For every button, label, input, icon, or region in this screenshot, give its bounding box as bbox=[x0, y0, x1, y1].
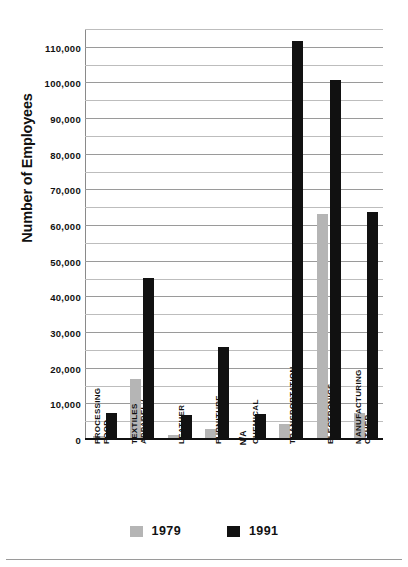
category-label-line: FURNITURE bbox=[215, 395, 224, 444]
y-axis-tick-labels: 010,00020,00030,00040,00050,00060,00070,… bbox=[5, 30, 81, 440]
category-label-line: MANUFACTURING bbox=[355, 369, 364, 444]
y-axis-tick-label: 80,000 bbox=[11, 149, 81, 160]
y-axis-tick-label: 60,000 bbox=[11, 221, 81, 232]
bar-group bbox=[91, 30, 122, 440]
y-axis-tick-label: 30,000 bbox=[11, 328, 81, 339]
legend-label: 1991 bbox=[249, 524, 278, 538]
legend-item: 1991 bbox=[227, 524, 278, 538]
category-label-line: FOOD bbox=[103, 420, 112, 444]
legend-swatch bbox=[227, 526, 240, 537]
y-axis-tick-label: 90,000 bbox=[11, 114, 81, 125]
y-axis-tick-label: 10,000 bbox=[11, 399, 81, 410]
bar-chart: Number of Employees 010,00020,00030,0004… bbox=[0, 0, 408, 567]
plot-area: N/A bbox=[85, 30, 383, 440]
category-label-line: LEATHER bbox=[178, 405, 187, 444]
bar-1991 bbox=[367, 212, 378, 440]
bar-group bbox=[203, 30, 234, 440]
y-axis-tick-label: 100,000 bbox=[11, 78, 81, 89]
legend-label: 1979 bbox=[152, 524, 181, 538]
y-axis-tick-label: 110,000 bbox=[11, 42, 81, 53]
bar-group bbox=[315, 30, 346, 440]
y-axis-tick-label: 20,000 bbox=[11, 363, 81, 374]
legend-item: 1979 bbox=[130, 524, 181, 538]
y-axis-tick-label: 50,000 bbox=[11, 256, 81, 267]
y-axis-tick-label: 70,000 bbox=[11, 185, 81, 196]
chart-legend: 19791991 bbox=[0, 524, 408, 538]
bar-group bbox=[128, 30, 159, 440]
bottom-divider bbox=[6, 559, 402, 560]
category-label-line: APPAREL / bbox=[140, 399, 149, 444]
category-label-line: TRANSPORTATION bbox=[289, 366, 298, 444]
bar-group bbox=[166, 30, 197, 440]
bar-group: N/A bbox=[240, 30, 271, 440]
y-axis-tick-label: 40,000 bbox=[11, 292, 81, 303]
category-label-line: TEXTILES bbox=[131, 403, 140, 444]
y-axis-tick-label: 0 bbox=[11, 435, 81, 446]
category-label-line: OTHER bbox=[364, 415, 373, 445]
legend-swatch bbox=[130, 526, 143, 537]
category-label-line: ELECTRONICS bbox=[327, 383, 336, 444]
y-axis-line bbox=[85, 30, 86, 440]
category-label-line: CHEMICAL bbox=[252, 399, 261, 444]
category-label-line: PROCESSING bbox=[94, 388, 103, 444]
x-axis-category-labels: FOODPROCESSINGAPPAREL /TEXTILESLEATHERFU… bbox=[85, 444, 383, 516]
